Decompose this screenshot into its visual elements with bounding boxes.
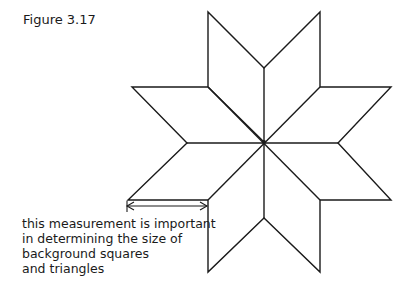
measurement-arrow [127,201,207,212]
note-line: background squares [22,246,216,261]
note-line: this measurement is important [22,216,216,231]
note-line: in determining the size of [22,231,216,246]
note-line: and triangles [22,261,216,276]
measurement-note: this measurement is important in determi… [22,216,216,276]
